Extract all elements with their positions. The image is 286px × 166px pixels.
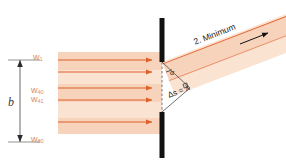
barrier-bottom-segment xyxy=(160,112,165,158)
incoming-band xyxy=(58,118,162,134)
angle-label: α xyxy=(170,68,174,77)
incoming-band xyxy=(58,84,162,102)
wavefront-label-bottom: w80 xyxy=(31,135,43,145)
diffraction-figure: w1 w40 w41 w80 b 2. Minimum Δs = λ α xyxy=(0,0,286,166)
diffracted-ray xyxy=(143,0,286,12)
diffracted-band xyxy=(140,0,286,21)
diffracted-ray xyxy=(146,0,286,21)
wavefront-label-top: w1 xyxy=(33,53,42,63)
incoming-band xyxy=(58,102,162,118)
dimension-arrow-up xyxy=(17,60,23,67)
barrier-top-segment xyxy=(160,18,165,62)
incoming-band xyxy=(58,52,162,70)
slit-width-label: b xyxy=(8,95,14,110)
wavefront-label-mid-b: w41 xyxy=(31,95,43,105)
dimension-arrow-down xyxy=(17,135,23,142)
